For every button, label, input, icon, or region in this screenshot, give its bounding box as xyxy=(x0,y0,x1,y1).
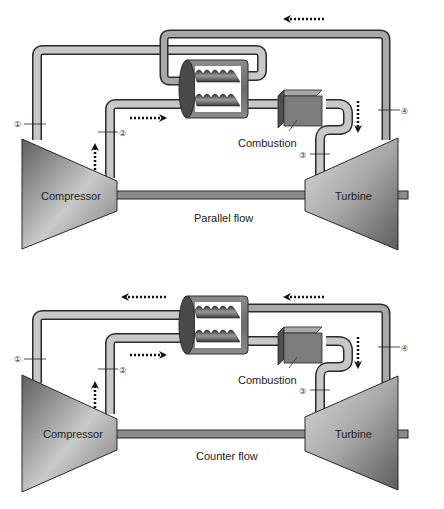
caption-parallel-flow: Parallel flow xyxy=(194,212,253,224)
turbine-label: Turbine xyxy=(335,190,372,202)
svg-text:②: ② xyxy=(119,366,126,375)
station-3: ③ xyxy=(299,151,330,160)
combustion-chamber: Combustion xyxy=(238,327,322,386)
turbine-label: Turbine xyxy=(335,428,372,440)
combustion-chamber: Combustion xyxy=(238,90,322,149)
pipe-2 xyxy=(110,104,184,178)
compressor-label: Compressor xyxy=(41,190,101,202)
svg-text:③: ③ xyxy=(299,387,306,396)
svg-text:④: ④ xyxy=(401,107,408,116)
svg-text:②: ② xyxy=(119,129,126,138)
combustion-label: Combustion xyxy=(238,374,297,386)
svg-text:①: ① xyxy=(14,120,21,129)
counter-flow-diagram: Compressor Turbine Combustion ① xyxy=(14,296,408,492)
compressor: Compressor xyxy=(22,375,117,492)
combustion-label: Combustion xyxy=(238,137,297,149)
regenerator xyxy=(179,296,248,354)
station-3: ③ xyxy=(299,387,330,396)
parallel-flow-diagram: Compressor Turbine Combustion ① xyxy=(14,19,408,250)
caption-counter-flow: Counter flow xyxy=(196,450,258,462)
svg-text:①: ① xyxy=(14,355,21,364)
gas-turbine-regenerator-diagrams: Compressor Turbine Combustion ① xyxy=(0,0,444,509)
compressor-label: Compressor xyxy=(43,428,103,440)
compressor: Compressor xyxy=(22,139,117,249)
pipe-2 xyxy=(110,338,184,414)
svg-text:④: ④ xyxy=(401,344,408,353)
svg-text:③: ③ xyxy=(299,151,306,160)
regenerator xyxy=(179,60,248,118)
